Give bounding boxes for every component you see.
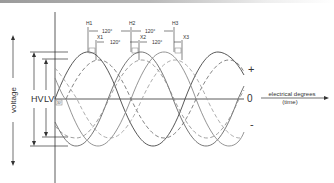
waveform-diagram: voltage HV LV 30° — [0, 0, 334, 183]
lv-spacing-2: 120° — [152, 39, 162, 45]
hv-label: HV — [31, 94, 44, 104]
h3-label: H3 — [172, 20, 179, 26]
hv-spacing-2: 120° — [145, 28, 155, 34]
minus-label: - — [250, 118, 254, 130]
lv-label: LV — [44, 94, 54, 104]
h2-label: H2 — [129, 20, 136, 26]
hv-spacing-1: 120° — [102, 28, 112, 34]
origin-30-label: 30° — [57, 101, 62, 105]
x2-label: X2 — [140, 34, 146, 40]
x-axis-label-line1: electrical degrees — [268, 91, 315, 97]
time-arrowhead — [324, 96, 329, 100]
h1-label: H1 — [86, 20, 93, 26]
x3-label: X3 — [183, 34, 189, 40]
x-axis-label-line2: (time) — [282, 99, 297, 105]
y-axis-label: voltage — [9, 87, 18, 113]
lv-spacing-1: 120° — [110, 39, 120, 45]
x1-label: X1 — [97, 34, 103, 40]
zero-label: 0 — [247, 93, 253, 104]
plus-label: + — [248, 63, 254, 75]
